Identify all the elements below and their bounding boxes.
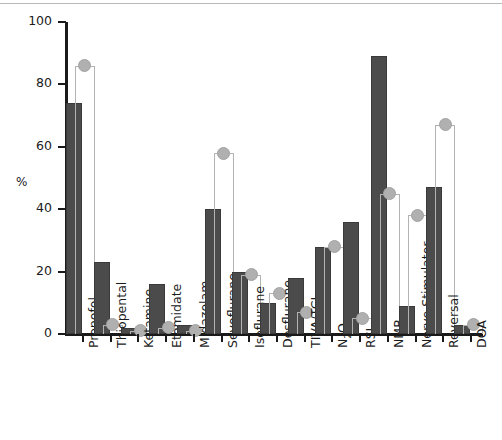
data-point-marker <box>328 240 341 253</box>
x-axis-tick <box>387 334 389 342</box>
x-axis-tick <box>110 334 112 342</box>
x-axis-tick <box>193 334 195 342</box>
bar-outlined <box>380 194 400 334</box>
x-axis-tick <box>359 334 361 342</box>
x-axis-category-label: DOA <box>476 320 489 348</box>
x-axis-category-label: Reversal <box>448 294 461 348</box>
y-axis-tick-label: 0 <box>0 327 52 340</box>
x-axis-tick <box>331 334 333 342</box>
x-axis-category-label: Etomidate <box>171 284 184 348</box>
bar-outlined <box>75 66 95 334</box>
y-axis-tick <box>58 146 66 148</box>
data-point-marker <box>411 209 424 222</box>
x-axis-tick <box>276 334 278 342</box>
grouped-bar-chart: % 020406080100PropofolThiopentalKetamine… <box>0 0 502 440</box>
y-axis-tick-label: 40 <box>0 202 52 215</box>
x-axis-tick <box>470 334 472 342</box>
y-axis-tick <box>58 21 66 23</box>
data-point-marker <box>356 312 369 325</box>
x-axis-tick <box>221 334 223 342</box>
x-axis-tick <box>165 334 167 342</box>
x-axis-tick <box>415 334 417 342</box>
chart-page: % 020406080100PropofolThiopentalKetamine… <box>0 0 502 440</box>
y-axis-tick-label: 80 <box>0 77 52 90</box>
y-axis-tick <box>58 83 66 85</box>
y-axis-tick-label: 20 <box>0 265 52 278</box>
y-axis-tick-label: 100 <box>0 15 52 28</box>
bar-outlined <box>324 247 344 334</box>
data-point-marker <box>245 268 258 281</box>
y-axis-tick-label: 60 <box>0 140 52 153</box>
data-point-marker <box>217 147 230 160</box>
y-axis-tick <box>58 208 66 210</box>
x-axis-tick <box>304 334 306 342</box>
y-axis-tick <box>58 271 66 273</box>
y-axis-tick <box>58 333 66 335</box>
x-axis-category-label: Thiopental <box>116 282 129 348</box>
x-axis-tick <box>248 334 250 342</box>
x-axis-tick <box>137 334 139 342</box>
x-axis-tick <box>442 334 444 342</box>
y-axis-title: % <box>16 175 27 189</box>
x-axis-tick <box>82 334 84 342</box>
